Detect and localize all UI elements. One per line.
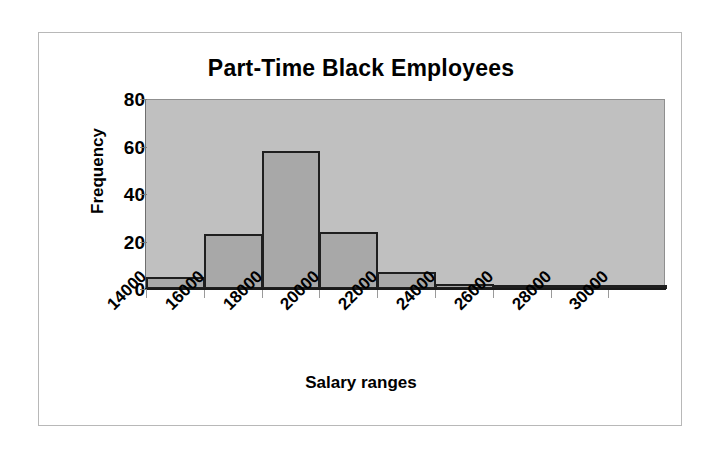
x-axis-tick-label: 22000: [335, 268, 380, 313]
chart-figure-frame: Part-Time Black Employees Frequency 0204…: [38, 32, 682, 426]
y-axis-tick-mark: [140, 242, 147, 243]
x-axis-tick-mark: [204, 290, 205, 298]
x-axis-tick-mark: [493, 290, 494, 298]
x-axis-title: Salary ranges: [39, 373, 683, 393]
x-axis-tick-mark: [262, 290, 263, 298]
x-axis-tick-mark: [319, 290, 320, 298]
x-axis-tick-label: 28000: [509, 268, 554, 313]
x-axis-tick-label: 20000: [277, 268, 322, 313]
x-axis-tick-label: 18000: [220, 268, 265, 313]
x-axis-tick-label: 24000: [393, 268, 438, 313]
x-axis-tick-label: 30000: [566, 268, 611, 313]
x-axis-tick-mark: [435, 290, 436, 298]
x-axis-tick-label: 26000: [451, 268, 496, 313]
x-axis-tick-mark: [146, 290, 147, 298]
x-axis-tick-mark: [608, 290, 609, 298]
x-axis-tick-mark: [377, 290, 378, 298]
y-axis-tick-mark: [140, 147, 147, 148]
x-axis-tick-label-group: 1400016000180002000022000240002600028000…: [39, 33, 683, 427]
y-axis-tick-mark: [140, 194, 147, 195]
x-axis-tick-label: 16000: [162, 268, 207, 313]
x-axis-tick-label: 14000: [104, 268, 149, 313]
y-axis-tick-mark: [140, 99, 147, 100]
x-axis-tick-mark: [551, 290, 552, 298]
